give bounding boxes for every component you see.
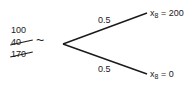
upper-outcome-value: = 200	[161, 8, 184, 18]
upper-outcome: x8 = 200	[150, 8, 184, 21]
lower-outcome: x8 = 0	[150, 69, 174, 82]
upper-branch-probability: 0.5	[98, 15, 111, 25]
lower-outcome-subscript: 8	[155, 73, 159, 80]
lower-outcome-value: = 0	[161, 69, 174, 79]
upper-outcome-subscript: 8	[155, 12, 159, 19]
lower-branch-probability: 0.5	[98, 64, 111, 74]
